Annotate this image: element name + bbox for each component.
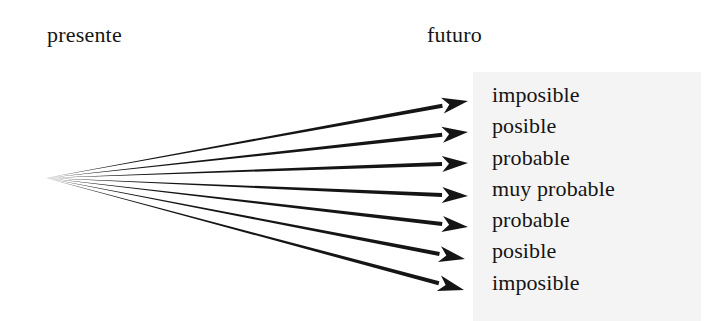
- outcome-label: posible: [492, 110, 702, 141]
- arrow-head-icon: [442, 187, 468, 203]
- outcome-label: probable: [492, 204, 702, 235]
- heading-presente: presente: [47, 24, 122, 46]
- outcome-label: probable: [492, 142, 702, 173]
- outcome-label: imposible: [492, 267, 702, 298]
- arrow-head-icon: [441, 216, 468, 232]
- arrow-shaft: [46, 162, 442, 178]
- arrow-head-icon: [441, 127, 468, 143]
- outcome-label: muy probable: [492, 173, 702, 204]
- arrow-head-icon: [441, 98, 468, 114]
- arrow-head-icon: [438, 246, 465, 262]
- arrow-shaft: [46, 178, 442, 226]
- outcome-label: posible: [492, 235, 702, 266]
- outcome-label: imposible: [492, 79, 702, 110]
- heading-futuro: futuro: [427, 24, 482, 46]
- diagram-canvas: presente futuro imposibleposibleprobable…: [0, 0, 716, 321]
- arrow-head-icon: [437, 276, 464, 291]
- arrow-head-icon: [442, 156, 468, 172]
- outcome-label-list: imposibleposibleprobablemuy probableprob…: [492, 79, 702, 298]
- arrow-shaft: [46, 178, 439, 285]
